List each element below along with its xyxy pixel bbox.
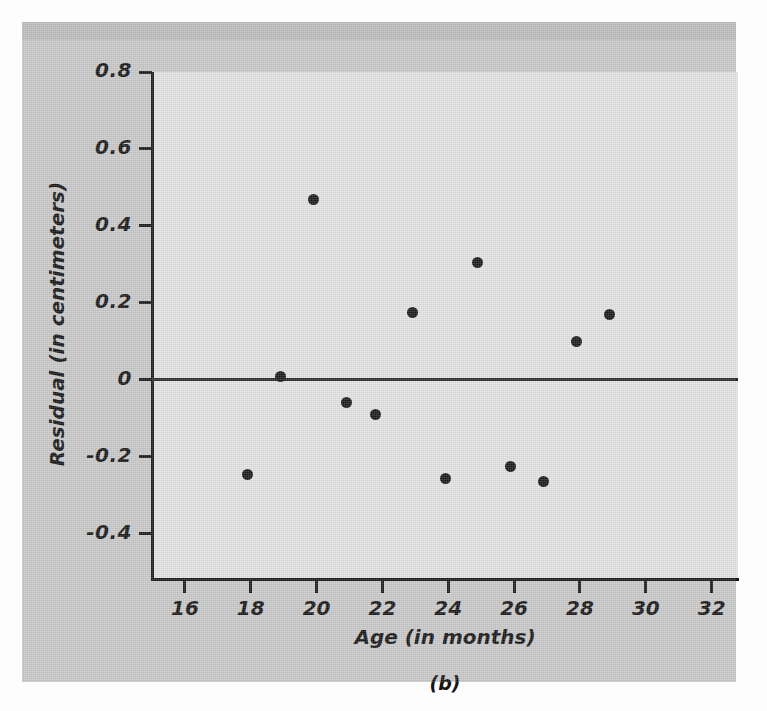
x-tick-label-24: 24 [418, 596, 478, 620]
y-tick-label-0.6: 0.6 [22, 135, 132, 159]
y-tick--0.2 [139, 455, 152, 458]
figure-panel: 0.80.60.40.20-0.2-0.4 161820222426283032… [22, 22, 736, 682]
y-tick--0.4 [139, 532, 152, 535]
y-tick-0.4 [139, 224, 152, 227]
x-tick-label-30: 30 [616, 596, 676, 620]
y-axis-title: Residual (in centimeters) [45, 70, 69, 578]
y-tick-label--0.2: -0.2 [22, 443, 132, 467]
scatter-point [571, 336, 582, 347]
x-tick-label-20: 20 [287, 596, 347, 620]
x-tick-28 [578, 580, 581, 593]
y-tick-0.2 [139, 301, 152, 304]
x-tick-32 [710, 580, 713, 593]
residual-plot-figure: 0.80.60.40.20-0.2-0.4 161820222426283032… [0, 0, 767, 711]
x-axis-title: Age (in months) [152, 625, 738, 649]
scatter-point [604, 309, 615, 320]
zero-residual-reference-line [152, 378, 738, 381]
x-tick-24 [447, 580, 450, 593]
x-tick-label-32: 32 [682, 596, 742, 620]
x-tick-label-28: 28 [550, 596, 610, 620]
y-tick-0.8 [139, 71, 152, 74]
panel-top-shading [22, 22, 736, 40]
y-tick-0 [139, 378, 152, 381]
x-tick-18 [249, 580, 252, 593]
y-tick-label--0.4: -0.4 [22, 520, 132, 544]
x-tick-label-22: 22 [352, 596, 412, 620]
x-tick-label-16: 16 [155, 596, 215, 620]
x-tick-26 [513, 580, 516, 593]
x-tick-label-26: 26 [484, 596, 544, 620]
scatter-point [275, 371, 286, 382]
scatter-point [407, 307, 418, 318]
x-tick-16 [183, 580, 186, 593]
plot-area-background [152, 72, 738, 580]
x-axis-spine [151, 578, 739, 581]
figure-caption: (b) [152, 672, 738, 694]
x-tick-label-18: 18 [221, 596, 281, 620]
x-tick-20 [315, 580, 318, 593]
x-tick-22 [381, 580, 384, 593]
y-tick-label-0.8: 0.8 [22, 58, 132, 82]
y-tick-0.6 [139, 147, 152, 150]
x-tick-30 [644, 580, 647, 593]
y-tick-label-0.2: 0.2 [22, 289, 132, 313]
scatter-point [440, 473, 451, 484]
y-tick-label-0: 0 [22, 366, 132, 390]
scatter-point [308, 194, 319, 205]
y-tick-label-0.4: 0.4 [22, 212, 132, 236]
scatter-point [242, 469, 253, 480]
